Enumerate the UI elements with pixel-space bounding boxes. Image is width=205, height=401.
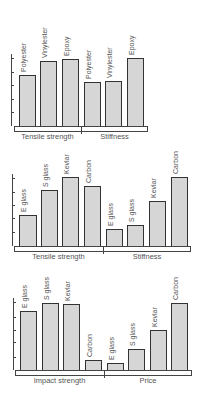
bar-label: Carbon [86, 334, 93, 357]
bar-label: S glass [43, 277, 50, 300]
bar-label: Carbon [172, 277, 179, 300]
bar-label: E glass [21, 285, 28, 308]
chart-fibre-impact-price: E glass S glass Kevlar Carbon E glass S … [0, 0, 205, 401]
y-tick [13, 330, 16, 331]
bar-impact-kevlar [63, 304, 80, 370]
bar-impact-carbon [85, 360, 102, 370]
bar-impact-s-glass [42, 303, 59, 370]
y-tick [13, 342, 16, 343]
bar-label: E glass [108, 337, 115, 360]
y-tick [13, 302, 16, 303]
group-label-impact: Impact strength [15, 376, 104, 385]
bar-price-carbon [171, 303, 188, 370]
group-label-price: Price [104, 376, 192, 385]
y-axis [13, 298, 14, 370]
bar-label: S glass [129, 323, 136, 346]
bar-price-s-glass [128, 349, 145, 370]
y-tick [13, 357, 16, 358]
bar-price-e-glass [107, 363, 124, 370]
bar-label: Kevlar [64, 281, 71, 301]
y-tick [13, 317, 16, 318]
bar-label: Kevlar [151, 307, 158, 327]
bar-price-kevlar [150, 330, 167, 370]
bar-impact-e-glass [20, 311, 37, 370]
